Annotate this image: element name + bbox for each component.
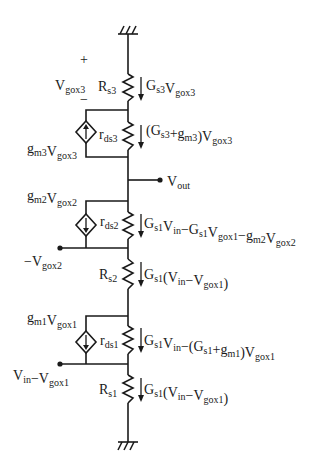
gm1-vgox1-label: gm1Vgox1: [27, 310, 77, 330]
bottom-ground-icon: [118, 442, 138, 450]
current-arrow-rds3-icon: [138, 125, 144, 149]
rds2-current-label: Gs1Vin−Gs1Vgox1−gm2Vgox2: [144, 216, 296, 248]
vgox3-label: Vgox3: [55, 78, 85, 95]
rds3-current-label: (Gs3+gm3)Vgox3: [146, 123, 232, 146]
minus-vgox2-label: −Vgox2: [24, 254, 62, 271]
vout-branch: [128, 177, 163, 182]
rds1-current-label: Gs1Vin−(Gs1+gm1)Vgox1: [144, 333, 275, 362]
rds2-label: rds2: [100, 214, 119, 231]
rds1-label: rds1: [100, 333, 119, 350]
rs3-label: Rs3: [98, 79, 116, 96]
node-minus-vgox2-dot: [57, 245, 62, 250]
rs2-label: Rs2: [99, 267, 117, 284]
resistor-rs2-icon: [123, 259, 133, 289]
current-arrow-rs3-icon: [138, 77, 144, 101]
top-ground-icon: [118, 26, 138, 34]
resistor-rds2-icon: [123, 212, 133, 239]
resistor-rds3-icon: [123, 122, 133, 150]
vin-minus-vgox1-label: Vin−Vgox1: [13, 368, 69, 388]
polarity-plus: +: [80, 52, 88, 67]
rs3-current-label: Gs3Vgox3: [146, 78, 195, 98]
circuit-diagram: + − Vgox3 Rs3 rds3 Gs3Vgox3 (Gs3+gm3)Vgo…: [0, 0, 309, 472]
rs1-label: Rs1: [99, 382, 117, 399]
resistor-rds1-icon: [123, 326, 133, 354]
resistor-rs1-icon: [123, 375, 133, 403]
node-vin-minus-vgox1-dot: [57, 361, 62, 366]
gm3-vgox3-label: gm3Vgox3: [27, 141, 77, 161]
rds3-label: rds3: [99, 127, 118, 144]
vout-label: Vout: [167, 174, 190, 191]
vout-node-dot: [157, 177, 162, 182]
resistor-rs3-icon: [123, 74, 133, 101]
gm2-vgox2-label: gm2Vgox2: [27, 188, 77, 208]
rs1-current-label: Gs1(Vin−Vgox1): [144, 382, 229, 407]
rs2-current-label: Gs1(Vin−Vgox1): [144, 267, 229, 292]
